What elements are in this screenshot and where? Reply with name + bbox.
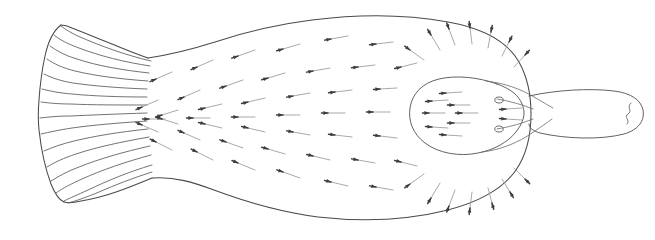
mouth xyxy=(626,103,631,124)
flow-arrow-shaft xyxy=(313,68,330,71)
flow-arrow xyxy=(232,159,255,170)
flow-arrow xyxy=(395,63,417,70)
flow-arrow-shaft xyxy=(376,187,393,190)
flow-arrow-shaft xyxy=(205,124,222,128)
flow-arrow-shaft xyxy=(248,128,265,132)
flow-arrow-shaft xyxy=(283,44,300,49)
fin-ray xyxy=(40,113,147,118)
flow-arrow xyxy=(370,184,393,190)
flow-arrow-head xyxy=(375,87,380,91)
caudal-fin xyxy=(38,25,152,203)
flow-arrow-shaft xyxy=(380,136,397,138)
flow-arrow xyxy=(405,174,424,188)
flow-arrow xyxy=(136,121,158,132)
flow-arrow-head xyxy=(368,110,373,114)
fin-ray xyxy=(41,102,147,105)
flow-arrow-shaft xyxy=(431,35,440,50)
flow-arrow xyxy=(199,121,222,128)
flow-arrow xyxy=(150,72,172,83)
flow-arrow-shaft xyxy=(293,93,310,96)
flow-arrow-shaft xyxy=(410,50,424,60)
flow-arrow-shaft xyxy=(446,92,462,93)
flow-arrow-shaft xyxy=(401,162,417,166)
flow-arrow xyxy=(502,179,514,198)
fin-ray xyxy=(42,89,147,97)
fin-ray xyxy=(41,121,147,134)
flow-arrow xyxy=(325,36,348,42)
flow-arrow-shaft xyxy=(142,100,158,107)
fin-ray xyxy=(68,172,152,203)
flow-arrow xyxy=(220,139,243,148)
flow-arrow xyxy=(329,90,352,94)
flow-arrow-shaft xyxy=(446,135,462,136)
fin-ray xyxy=(51,146,150,181)
peduncle-lower-edge xyxy=(64,178,152,203)
fin-ray xyxy=(61,26,151,61)
fin-ray xyxy=(47,59,148,81)
flow-arrow xyxy=(500,107,522,111)
flow-arrow-head xyxy=(233,115,238,119)
flow-arrow-head xyxy=(179,97,184,101)
flow-arrow xyxy=(456,111,479,115)
flow-arrow-head xyxy=(501,117,506,121)
flow-arrow xyxy=(448,103,471,107)
snout-outline xyxy=(529,90,643,138)
flow-arrow-shaft xyxy=(293,132,310,135)
flow-arrow-shaft xyxy=(358,65,375,67)
flow-arrow-shaft xyxy=(506,119,522,120)
flow-arrow-shaft xyxy=(410,174,424,184)
flow-arrow-shaft xyxy=(514,168,525,179)
flow-arrow-head xyxy=(278,48,283,52)
flow-arrow-shaft xyxy=(268,149,285,154)
head-outline xyxy=(410,77,524,155)
flow-arrow-shaft xyxy=(331,36,348,39)
flow-arrow xyxy=(448,121,471,125)
flow-arrow-shaft xyxy=(184,90,200,97)
fin-ray xyxy=(47,137,149,167)
flow-arrow xyxy=(178,129,200,140)
flow-arrow-shaft xyxy=(313,156,330,160)
flow-arrow-shaft xyxy=(197,152,213,160)
flow-arrow xyxy=(232,50,255,59)
flow-arrow-head xyxy=(446,24,450,29)
flow-arrow-shaft xyxy=(156,72,172,79)
flow-arrow-shaft xyxy=(449,29,455,45)
flow-arrow xyxy=(374,134,397,138)
flow-arrow xyxy=(220,80,243,89)
flow-arrow-head xyxy=(501,107,506,111)
flow-arrow xyxy=(199,104,222,111)
flow-vector-field xyxy=(136,22,530,215)
flow-arrow xyxy=(277,113,301,117)
flow-arrow xyxy=(322,111,346,115)
flow-arrow-head xyxy=(449,121,454,125)
flow-arrow xyxy=(187,116,211,120)
flow-arrow xyxy=(156,116,178,124)
flow-arrow xyxy=(352,157,375,163)
flow-arrow xyxy=(325,179,348,186)
flow-arrow-head xyxy=(233,56,238,60)
flow-arrow-head xyxy=(263,146,268,150)
flow-arrow-shaft xyxy=(156,142,172,150)
flow-arrow xyxy=(307,153,330,160)
flow-arrow xyxy=(370,42,393,46)
fin-ray xyxy=(56,155,151,193)
flow-arrow xyxy=(440,91,462,95)
flow-arrow-head xyxy=(427,99,432,103)
flow-arrow xyxy=(262,146,285,154)
flow-arrow xyxy=(307,68,330,74)
flow-arrow-head xyxy=(137,107,142,111)
flow-arrow-shaft xyxy=(248,98,265,102)
flow-arrow-head xyxy=(441,91,446,95)
opercular-line-lower xyxy=(482,119,552,152)
flow-arrow-shaft xyxy=(380,88,397,89)
flow-arrow xyxy=(232,115,256,119)
flow-arrow-head xyxy=(263,77,268,81)
flow-arrow-head xyxy=(192,67,197,71)
flow-arrow xyxy=(242,125,265,132)
flow-arrow-head xyxy=(144,117,149,121)
flow-arrow xyxy=(426,99,448,103)
flow-arrow-shaft xyxy=(205,104,222,108)
flow-arrow xyxy=(329,133,352,137)
flow-arrow xyxy=(178,90,200,101)
flow-arrow xyxy=(262,73,285,81)
